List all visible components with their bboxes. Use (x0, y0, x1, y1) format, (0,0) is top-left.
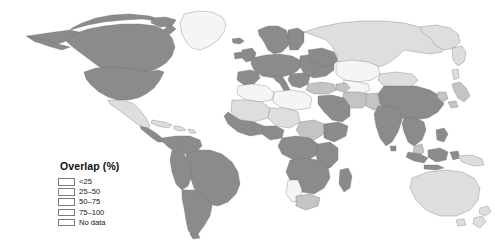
legend-swatch-lt25 (58, 178, 75, 186)
country-tasmania (456, 219, 466, 226)
legend-swatch-50-75 (58, 198, 75, 206)
legend-label-75-100: 75–100 (79, 209, 104, 217)
world-choropleth-map: Overlap (%) <25 25–50 50–75 75–100 No da… (0, 0, 495, 242)
legend-label-25-50: 25–50 (79, 188, 100, 196)
map-legend: Overlap (%) <25 25–50 50–75 75–100 No da… (58, 160, 138, 228)
legend-title: Overlap (%) (60, 160, 138, 172)
legend-swatch-25-50 (58, 188, 75, 196)
legend-item-nodata: No data (58, 218, 138, 228)
legend-item-lt25: <25 (58, 177, 138, 187)
country-sri-lanka (390, 146, 396, 151)
country-mongolia (378, 72, 418, 88)
legend-item-50-75: 50–75 (58, 197, 138, 207)
country-ireland (234, 52, 242, 59)
legend-item-25-50: 25–50 (58, 187, 138, 197)
legend-label-lt25: <25 (79, 178, 92, 186)
legend-swatch-nodata (58, 219, 75, 227)
country-turkey (306, 82, 336, 94)
legend-label-50-75: 50–75 (79, 198, 100, 206)
legend-swatch-75-100 (58, 209, 75, 217)
legend-item-75-100: 75–100 (58, 208, 138, 218)
legend-label-nodata: No data (79, 219, 106, 227)
